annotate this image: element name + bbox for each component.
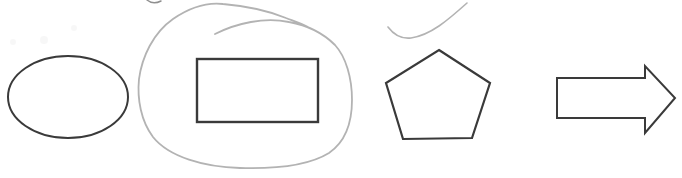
faint-smudge bbox=[71, 25, 77, 31]
faint-smudge bbox=[10, 39, 16, 45]
hand-drawn-loop-annotation bbox=[139, 4, 352, 169]
pentagon-shape[interactable] bbox=[386, 50, 490, 139]
rectangle-shape[interactable] bbox=[197, 59, 318, 122]
drawing-stage bbox=[0, 0, 682, 178]
arrow-right-shape[interactable] bbox=[557, 66, 675, 133]
swoosh-curve-annotation bbox=[388, 3, 467, 38]
top-edge-pen-mark bbox=[147, 0, 161, 3]
faint-smudge bbox=[40, 36, 48, 44]
drawing-canvas[interactable] bbox=[0, 0, 682, 178]
ellipse-shape[interactable] bbox=[8, 56, 128, 138]
